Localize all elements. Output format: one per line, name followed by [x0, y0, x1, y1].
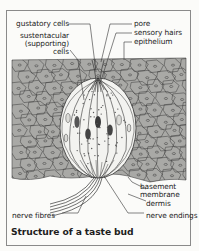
label-dermis: dermis: [146, 200, 171, 208]
granule: [88, 143, 89, 144]
epithelial-cell: [189, 92, 199, 107]
granule: [99, 127, 100, 128]
epithelial-cell-nucleus: [187, 64, 190, 66]
granule: [97, 137, 98, 138]
granule: [101, 113, 102, 114]
granule: [74, 114, 75, 115]
granule: [104, 140, 105, 141]
granule: [115, 112, 116, 113]
gustatory-nucleus: [107, 125, 113, 136]
granule: [106, 161, 107, 162]
granule: [102, 105, 103, 106]
granule: [84, 94, 85, 95]
granule: [108, 138, 109, 139]
granule: [88, 153, 89, 154]
granule: [87, 140, 88, 141]
granule: [121, 137, 122, 138]
epithelial-cell-nucleus: [196, 75, 199, 77]
granule: [91, 148, 92, 149]
granule: [83, 103, 84, 104]
granule: [110, 98, 111, 99]
granule: [94, 94, 95, 95]
supporting-nucleus: [64, 134, 68, 142]
granule: [90, 108, 91, 109]
granule: [112, 94, 113, 95]
granule: [81, 143, 82, 144]
granule: [116, 145, 117, 146]
granule: [79, 132, 80, 133]
epithelial-cell-nucleus: [190, 107, 193, 109]
granule: [123, 120, 124, 121]
epithelial-cell-nucleus: [191, 174, 194, 176]
granule: [106, 133, 107, 134]
supporting-nucleus: [117, 115, 122, 125]
granule: [98, 144, 99, 145]
granule: [106, 94, 107, 95]
epithelial-cell: [188, 114, 199, 129]
epithelial-cell-nucleus: [196, 121, 199, 123]
granule: [77, 150, 78, 151]
granule: [94, 116, 95, 117]
granule: [93, 112, 94, 113]
epithelial-cell: [188, 69, 199, 83]
granule: [90, 116, 91, 117]
epithelial-cell: [190, 135, 199, 150]
label-basement-2: membrane: [140, 191, 180, 199]
label-sustentacular-3: cells: [12, 48, 69, 56]
epithelial-cell-nucleus: [187, 152, 190, 154]
granule: [76, 112, 77, 113]
supporting-nucleus: [66, 114, 70, 123]
label-gustatory-cells: gustatory cells: [12, 20, 69, 28]
granule: [83, 153, 84, 154]
granule: [94, 155, 95, 156]
granule: [101, 107, 102, 108]
granule: [117, 108, 118, 109]
granule: [98, 109, 99, 110]
granule: [91, 91, 92, 92]
label-epithelium: epithelium: [134, 38, 172, 46]
supporting-nucleus: [127, 124, 131, 132]
label-nerve-endings: nerve endings: [146, 212, 197, 220]
granule: [98, 155, 99, 156]
epithelial-cell: [188, 158, 199, 171]
granule: [116, 152, 117, 153]
granule: [108, 134, 109, 135]
epithelial-cell-nucleus: [197, 142, 199, 144]
granule: [87, 163, 88, 164]
granule: [111, 92, 112, 93]
granule: [108, 144, 109, 145]
granule: [96, 123, 97, 124]
label-pore: pore: [134, 20, 150, 28]
gustatory-nucleus: [95, 116, 101, 128]
gustatory-nucleus: [74, 116, 79, 128]
epithelial-cell-nucleus: [189, 84, 192, 86]
granule: [84, 155, 85, 156]
granule: [117, 142, 118, 143]
granule: [92, 138, 93, 139]
granule: [89, 99, 90, 100]
epithelial-cell-nucleus: [195, 164, 198, 166]
gustatory-nucleus: [85, 129, 91, 140]
granule: [83, 119, 84, 120]
granule: [107, 127, 108, 128]
nerve-fibres: [50, 178, 102, 216]
label-nerve-fibres: nerve fibres: [12, 212, 55, 220]
diagram-title: Structure of a taste bud: [11, 226, 134, 237]
granule: [106, 95, 107, 96]
granule: [76, 110, 77, 111]
epithelial-cell-nucleus: [187, 131, 190, 133]
label-sensory-hairs: sensory hairs: [134, 29, 182, 37]
epithelial-cell-nucleus: [197, 98, 199, 100]
granule: [90, 138, 91, 139]
granule: [73, 126, 74, 127]
granule: [77, 133, 78, 134]
epithelial-cell-nucleus: [119, 175, 122, 177]
granule: [125, 122, 126, 123]
